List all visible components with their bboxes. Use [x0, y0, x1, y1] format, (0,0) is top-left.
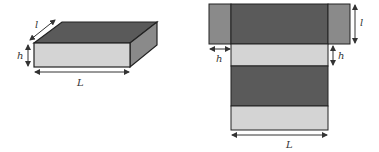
- net-back-panel: [231, 106, 328, 130]
- box-length-label: L: [76, 77, 84, 88]
- box-3d: l h L: [17, 19, 157, 88]
- box-front-face: [34, 43, 130, 67]
- net-height-left-label: h: [216, 53, 222, 64]
- net-width-label: l: [360, 17, 363, 28]
- net-front-panel: [231, 44, 328, 66]
- net-left-flap: [209, 4, 231, 44]
- box-width-label: l: [35, 19, 38, 30]
- net-bottom-panel: [231, 66, 328, 106]
- net-right-flap: [328, 4, 350, 44]
- net-top-panel: [231, 4, 328, 44]
- box-net: l h h L: [209, 4, 363, 150]
- net-height-right-label: h: [338, 50, 344, 61]
- rectangular-box-diagram: l h L l h h L: [0, 0, 379, 152]
- net-length-label: L: [285, 139, 293, 150]
- box-height-label: h: [17, 50, 23, 61]
